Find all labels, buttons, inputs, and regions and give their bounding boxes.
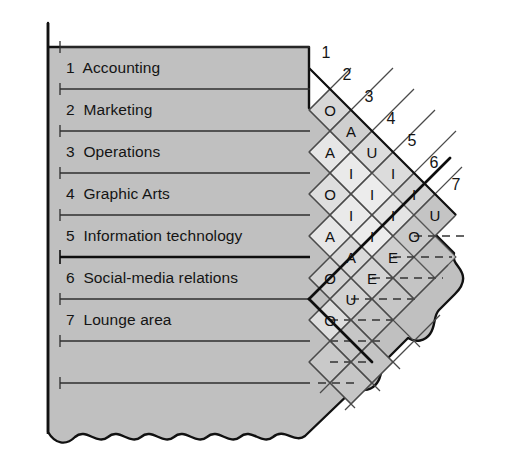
- department-label-6: 6 Social-media relations: [66, 270, 238, 286]
- column-number-5: 5: [408, 133, 417, 149]
- rating-1-5: A: [325, 229, 335, 244]
- rating-2-7: U: [346, 292, 357, 307]
- department-number-6: 6: [66, 270, 79, 286]
- department-name-1: Accounting: [83, 59, 161, 76]
- department-number-4: 4: [66, 186, 79, 202]
- department-label-5: 5 Information technology: [66, 228, 242, 244]
- department-name-4: Graphic Arts: [83, 185, 169, 202]
- rating-2-4: I: [349, 166, 353, 181]
- rating-1-2: O: [324, 103, 336, 118]
- rating-2-6: A: [346, 250, 356, 265]
- department-number-3: 3: [66, 144, 79, 160]
- rating-4-7: E: [388, 250, 398, 265]
- department-number-5: 5: [66, 228, 79, 244]
- department-number-2: 2: [66, 102, 79, 118]
- department-label-3: 3 Operations: [66, 144, 160, 160]
- department-name-2: Marketing: [83, 101, 152, 118]
- column-number-7: 7: [452, 177, 461, 193]
- column-number-6: 6: [430, 155, 439, 171]
- column-number-2: 2: [343, 67, 352, 83]
- rating-2-3: A: [346, 124, 356, 139]
- department-label-1: 1 Accounting: [66, 60, 160, 76]
- department-name-7: Lounge area: [83, 311, 171, 328]
- column-number-3: 3: [365, 89, 374, 105]
- department-name-5: Information technology: [83, 227, 242, 244]
- column-number-4: 4: [387, 111, 396, 127]
- department-number-1: 1: [66, 60, 79, 76]
- rating-6-7: U: [430, 208, 441, 223]
- rating-3-6: I: [370, 229, 374, 244]
- rating-5-7: O: [408, 229, 420, 244]
- rating-4-5: I: [391, 166, 395, 181]
- rating-3-7: E: [367, 271, 377, 286]
- rating-1-6: O: [324, 271, 336, 286]
- department-label-2: 2 Marketing: [66, 102, 152, 118]
- department-label-4: 4 Graphic Arts: [66, 186, 170, 202]
- column-number-1: 1: [322, 45, 331, 61]
- department-label-7: 7 Lounge area: [66, 312, 172, 328]
- rating-3-4: U: [367, 145, 378, 160]
- rating-2-5: I: [349, 208, 353, 223]
- department-name-6: Social-media relations: [83, 269, 238, 286]
- rating-3-5: I: [370, 187, 374, 202]
- rating-1-4: O: [324, 187, 336, 202]
- rating-5-6: I: [412, 187, 416, 202]
- rating-4-6: I: [391, 208, 395, 223]
- rating-1-3: A: [325, 145, 335, 160]
- department-name-3: Operations: [83, 143, 160, 160]
- department-number-7: 7: [66, 312, 79, 328]
- relationship-chart-diagram: 1 Accounting 2 Marketing 3 Operations 4 …: [0, 0, 528, 465]
- rating-1-7: O: [324, 313, 336, 328]
